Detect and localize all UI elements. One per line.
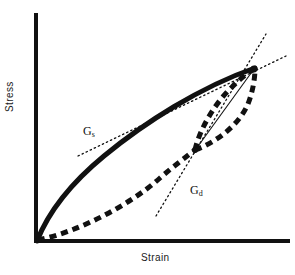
axes-group [34,13,290,242]
peak-convergence-point [251,66,258,73]
x-axis-label: Strain [141,252,170,263]
tangent-modulus-symbol: G [190,183,199,197]
y-axis-label: Stress [4,81,15,112]
tangent-modulus-line-gd [156,34,266,216]
loop-lower-tip-point [192,147,198,153]
secant-modulus-subscript: s [92,130,95,139]
origin-point [36,237,41,242]
stress-strain-plot [0,0,295,275]
secant-modulus-symbol: G [83,124,92,138]
stress-strain-figure: Stress Strain Gs Gd [0,0,295,275]
tangent-modulus-subscript: d [199,189,203,198]
tangent-modulus-label: Gd [190,183,203,198]
secant-modulus-label: Gs [83,124,95,139]
